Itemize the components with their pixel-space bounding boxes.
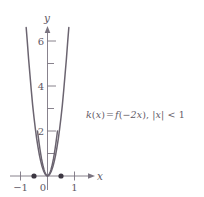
x-tick-label-zero: 0 [40,182,46,193]
y-tick-label-six: 6 [38,36,44,47]
equation-inner-expression: −2x [123,109,143,120]
right-endpoint-dot [58,173,63,178]
y-tick-label-four: 4 [38,81,44,92]
x-tick-label-one: 1 [71,182,77,193]
left-endpoint-dot [31,173,36,178]
equation-arg-close: ) [101,109,105,120]
plot-canvas: −1 0 1 2 4 6 x y [0,0,204,197]
function-graph-figure: −1 0 1 2 4 6 x y k(x) = f(−2x), |x| < 1 [0,0,204,197]
equation-equals: = [106,109,114,120]
y-axis [45,26,51,190]
y-axis-label: y [43,12,51,24]
x-axis-label: x [97,170,103,182]
y-tick-label-two: 2 [38,126,44,137]
equation-bound: 1 [179,109,185,120]
equation-less-than: < [164,109,178,120]
x-axis [10,173,95,179]
y-axis-ticks [48,41,57,154]
equation-annotation: k(x) = f(−2x), |x| < 1 [86,109,201,120]
x-tick-label-neg-one: −1 [13,182,28,193]
